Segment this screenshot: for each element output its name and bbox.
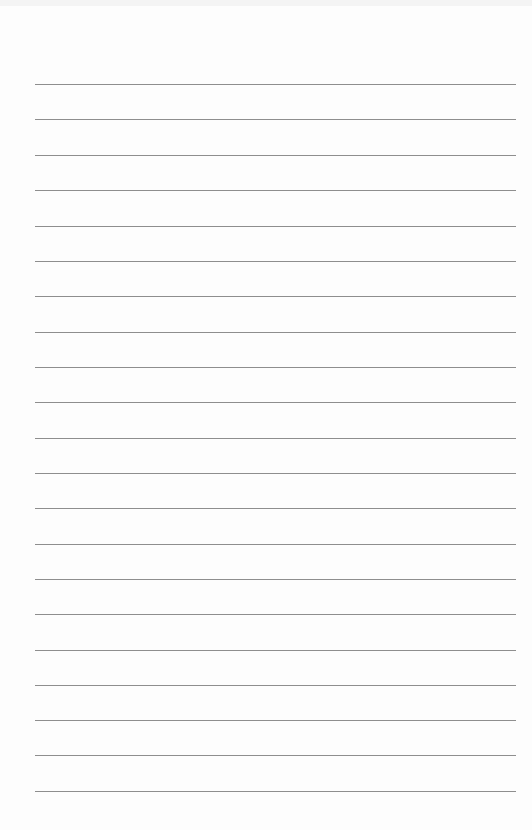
- ruled-line: [35, 650, 516, 651]
- ruled-line: [35, 579, 516, 580]
- lined-paper-sheet: [0, 0, 532, 830]
- ruled-line: [35, 473, 516, 474]
- ruled-line: [35, 544, 516, 545]
- ruled-line: [35, 155, 516, 156]
- ruled-line: [35, 508, 516, 509]
- ruled-line: [35, 261, 516, 262]
- ruled-line: [35, 119, 516, 120]
- ruled-line: [35, 614, 516, 615]
- ruled-line: [35, 438, 516, 439]
- ruled-line: [35, 755, 516, 756]
- ruled-line: [35, 226, 516, 227]
- ruled-line: [35, 402, 516, 403]
- ruled-line: [35, 190, 516, 191]
- ruled-line: [35, 720, 516, 721]
- ruled-line: [35, 84, 516, 85]
- ruled-line: [35, 332, 516, 333]
- ruled-line: [35, 296, 516, 297]
- ruled-line: [35, 367, 516, 368]
- ruled-line: [35, 791, 516, 792]
- ruled-line: [35, 685, 516, 686]
